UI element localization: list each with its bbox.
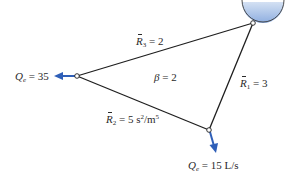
pipe-2-label: R2 = 5 s2/m5: [106, 114, 159, 125]
pipe-3: [77, 23, 253, 76]
outflow-bottom-label: Qe = 15 L/s: [188, 160, 239, 171]
r2-symbol: R: [106, 114, 113, 125]
outflow-left-label: Qe = 35: [15, 71, 49, 82]
node-top: [251, 21, 256, 26]
reservoir-icon: [242, 0, 284, 23]
r3-symbol: R: [136, 36, 143, 47]
pipe-network-diagram: [0, 0, 296, 181]
node-bottom: [207, 128, 212, 133]
node-left: [75, 74, 80, 79]
pipe-3-label: R3 = 2: [136, 36, 163, 47]
pipe-1-label: R1 = 3: [240, 78, 267, 89]
r1-symbol: R: [240, 78, 247, 89]
beta-label: β = 2: [154, 72, 177, 83]
outflow-arrow-down-icon: [210, 132, 219, 153]
outflow-arrow-left-icon: [54, 72, 75, 80]
